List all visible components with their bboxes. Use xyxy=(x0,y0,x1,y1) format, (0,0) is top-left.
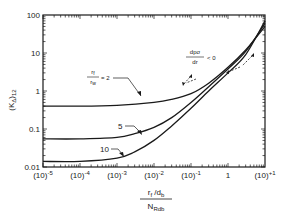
x-tick-1e-2: (10)-2 xyxy=(144,170,164,180)
svg-text:rf: rf xyxy=(91,69,95,76)
svg-text:rw: rw xyxy=(90,79,96,86)
x-label-numerator: rf /db xyxy=(148,188,165,198)
x-tick-labels: (10)-5 (10)-4 (10)-3 (10)-2 (10)-1 1 (10… xyxy=(33,170,276,180)
x-tick-1e-5: (10)-5 xyxy=(33,170,53,180)
series-line-2 xyxy=(43,21,265,162)
x-label-denominator: NRdb xyxy=(148,202,165,212)
plot-frame xyxy=(43,15,265,167)
y-tick-0.1: 0.1 xyxy=(29,125,41,134)
series-curves xyxy=(43,21,265,162)
svg-text:dpσ: dpσ xyxy=(190,49,201,55)
axis-ticks xyxy=(43,15,265,167)
y-tick-10: 10 xyxy=(31,49,40,58)
y-tick-100: 100 xyxy=(27,11,41,20)
x-tick-1e1: (10)+1 xyxy=(254,170,276,180)
svg-text:(KΔ)12: (KΔ)12 xyxy=(7,89,17,111)
x-tick-1e-4: (10)-4 xyxy=(70,170,90,180)
x-tick-1e-3: (10)-3 xyxy=(107,170,127,180)
x-tick-1e-1: (10)-1 xyxy=(181,170,201,180)
annotation-ratio-2: rf rw = 2 xyxy=(87,69,141,96)
y-tick-labels: 100 10 1 0.1 0.01 xyxy=(24,11,40,172)
y-axis-label: (KΔ)12 xyxy=(7,89,17,111)
x-tick-1: 1 xyxy=(226,171,231,180)
svg-text:5: 5 xyxy=(118,122,123,131)
chart: 100 10 1 0.1 0.01 (10)-5 (10)-4 (10)-3 (… xyxy=(0,0,286,224)
svg-text:= 2: = 2 xyxy=(101,75,110,81)
y-tick-1: 1 xyxy=(36,87,41,96)
svg-text:< 0: < 0 xyxy=(207,55,216,61)
svg-text:10: 10 xyxy=(100,145,109,154)
annotation-10: 10 xyxy=(100,145,124,157)
svg-text:dr: dr xyxy=(192,59,197,65)
series-line-1 xyxy=(43,23,265,139)
x-axis-label: rf /db NRdb xyxy=(140,188,172,212)
